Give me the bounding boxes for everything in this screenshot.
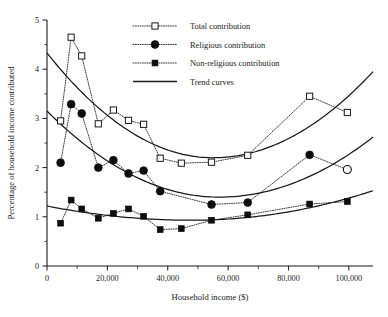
data-point [126,206,132,212]
data-point [343,166,351,174]
data-point [79,206,85,212]
data-point [306,151,314,159]
x-tick-label: 100,000 [336,274,363,283]
scatter-plot-canvas: 012345 020,00040,00060,00080,000100,000 … [0,0,388,317]
series-connector [61,37,348,163]
x-tick-label: 0 [45,274,49,283]
data-point [95,121,101,127]
legend-label: Trend curves [190,78,234,87]
data-point [156,187,164,195]
data-point [344,199,350,205]
data-point [79,53,85,59]
x-tick-label: 60,000 [217,274,240,283]
y-axis-ticks [43,20,48,266]
x-tick-label: 20,000 [96,274,119,283]
y-tick-label: 1 [35,213,39,222]
data-point [209,217,215,223]
y-tick-label: 4 [35,65,39,74]
x-axis-ticks [47,266,349,271]
x-tick-label: 80,000 [277,274,300,283]
data-point [95,215,101,221]
data-point [110,107,116,113]
data-point [140,167,148,175]
y-tick-label: 0 [35,262,39,271]
trend-curve [47,53,373,158]
legend-marker [152,60,158,66]
y-tick-label: 5 [35,16,39,25]
chart-figure: 012345 020,00040,00060,00080,000100,000 … [0,0,388,317]
y-axis-tick-labels: 012345 [35,16,39,271]
chart-legend: Total contributionReligious contribution… [133,22,280,87]
data-point [125,170,133,178]
legend-marker [152,23,158,29]
y-tick-label: 3 [35,114,39,123]
y-tick-label: 2 [35,164,39,173]
x-tick-label: 40,000 [156,274,179,283]
data-point [208,201,216,209]
data-point [125,117,131,123]
data-point [208,159,214,165]
data-point [58,220,64,226]
x-axis-title: Household income ($) [172,292,249,302]
data-point [141,213,147,219]
legend-marker [151,41,159,49]
data-point [57,159,65,167]
data-point [57,118,63,124]
data-point [157,227,163,233]
data-point [244,199,252,207]
x-axis-tick-labels: 020,00040,00060,00080,000100,000 [45,274,362,283]
legend-label: Non-religious contribution [190,59,280,68]
data-point [157,155,163,161]
data-point [110,156,118,164]
data-point [78,110,86,118]
data-point [307,93,313,99]
legend-label: Religious contribution [190,41,266,50]
data-point [68,34,74,40]
data-point [245,212,251,218]
series-connector [61,104,348,204]
data-point [245,152,251,158]
axis-lines [47,20,373,266]
legend-label: Total contribution [190,22,251,31]
y-axis-title: Percentage of household income contribut… [6,66,16,220]
data-point [307,201,313,207]
data-point [67,100,75,108]
data-point [178,226,184,232]
data-point [178,160,184,166]
data-point [111,210,117,216]
data-point [140,121,146,127]
data-point [344,109,350,115]
data-point [94,164,102,172]
data-point [68,197,74,203]
